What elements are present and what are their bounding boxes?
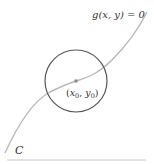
- curve-name-label: C: [15, 144, 24, 157]
- point-marker: [75, 80, 78, 83]
- point-label: (x0, y0): [66, 87, 99, 100]
- curve-equation-label: g(x, y) = 0: [92, 9, 146, 20]
- diagram-canvas: g(x, y) = 0 C (x0, y0): [0, 0, 154, 164]
